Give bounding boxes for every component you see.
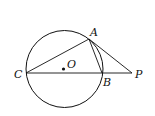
- label-o: O: [67, 58, 76, 71]
- label-p: P: [134, 68, 143, 81]
- label-b: B: [102, 76, 111, 89]
- label-a: A: [89, 26, 98, 39]
- label-c: C: [14, 68, 23, 81]
- geometry-diagram: A B C O P: [0, 0, 155, 116]
- center-point-o: [62, 67, 65, 70]
